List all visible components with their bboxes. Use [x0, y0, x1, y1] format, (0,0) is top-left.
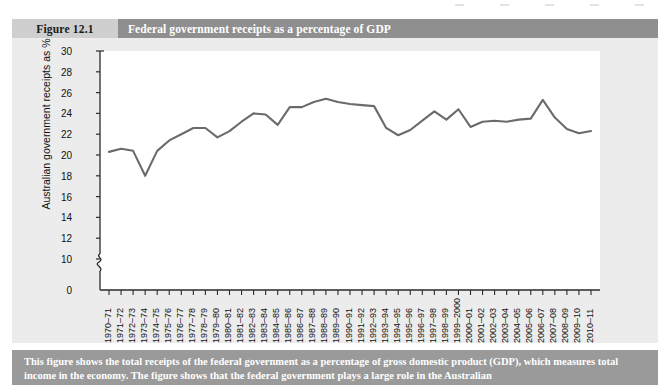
x-axis-tick-label: 1994–95 — [392, 308, 402, 343]
figure-panel: Australian government receipts as % 0101… — [12, 38, 658, 343]
x-axis-tick-label: 1982–83 — [247, 308, 257, 343]
x-axis-tick-label: 2003–04 — [500, 308, 510, 343]
page-top-strip — [0, 0, 670, 12]
x-axis-tick-label: 1976–77 — [175, 308, 185, 343]
x-axis-tick-label: 1985–86 — [283, 308, 293, 343]
x-axis-tick-label: 1979–80 — [211, 308, 221, 343]
page-tick-mark — [500, 4, 509, 6]
page-tick-mark — [455, 4, 464, 6]
x-axis-tick-label: 1991–92 — [356, 308, 366, 343]
x-axis-tick-label: 2007–08 — [548, 308, 558, 343]
x-axis-tick-label: 1986–87 — [295, 308, 305, 343]
x-axis-tick-label: 1987–88 — [307, 308, 317, 343]
figure-root: Figure 12.1 Federal government receipts … — [0, 0, 670, 385]
figure-title: Federal government receipts as a percent… — [118, 19, 658, 38]
x-axis-tick-label: 1984–85 — [271, 308, 281, 343]
x-axis-tick-label: 1993–94 — [380, 308, 390, 343]
y-axis-break-symbol — [97, 254, 101, 271]
x-axis-tick-label: 1970–71 — [103, 308, 113, 343]
x-axis-tick-label: 2008–09 — [560, 308, 570, 343]
x-axis-tick-label: 1999–2000 — [452, 298, 462, 343]
x-axis-tick-label: 1981–82 — [235, 308, 245, 343]
x-axis-tick-label: 1973–74 — [139, 308, 149, 343]
x-axis-tick-label: 1983–84 — [259, 308, 269, 343]
page-tick-mark — [590, 4, 599, 6]
x-axis-tick-label: 1972–73 — [127, 308, 137, 343]
x-axis-tick-label: 2009–10 — [572, 308, 582, 343]
x-axis-tick-label: 1998–99 — [440, 308, 450, 343]
x-axis-tick-label: 2005–06 — [524, 308, 534, 343]
x-axis-tick-label: 2002–03 — [488, 308, 498, 343]
x-axis-tick-label: 1992–93 — [368, 308, 378, 343]
data-series-line — [109, 99, 591, 176]
page-tick-mark — [545, 4, 554, 6]
x-axis-tick-label: 1996–97 — [416, 308, 426, 343]
x-axis-tick-label: 2006–07 — [536, 308, 546, 343]
figure-header: Figure 12.1 Federal government receipts … — [12, 19, 658, 38]
figure-caption: This figure shows the total receipts of … — [12, 350, 658, 385]
x-axis-tick-label: 1988–89 — [319, 308, 329, 343]
x-axis-tick-label: 1975–76 — [163, 308, 173, 343]
x-axis-tick-label: 2004–05 — [512, 308, 522, 343]
x-axis-tick-label: 1977–78 — [187, 308, 197, 343]
x-axis-tick-label: 1971–72 — [115, 308, 125, 343]
x-axis-tick-label: 2000–01 — [464, 308, 474, 343]
x-axis-tick-label: 1974–75 — [151, 308, 161, 343]
figure-number: Figure 12.1 — [12, 19, 118, 38]
x-axis-tick-label: 1995–96 — [404, 308, 414, 343]
x-axis-tick-labels: 1970–711971–721972–731973–741974–751975–… — [12, 294, 658, 343]
x-axis-tick-label: 1978–79 — [199, 308, 209, 343]
x-axis-tick-label: 2010–11 — [585, 309, 595, 343]
x-axis-tick-label: 1997–98 — [428, 308, 438, 343]
x-axis-tick-label: 1989–90 — [331, 308, 341, 343]
page-tick-mark — [635, 4, 644, 6]
x-axis-tick-label: 1990–91 — [344, 308, 354, 343]
x-axis-tick-label: 1980–81 — [223, 308, 233, 343]
x-axis-tick-label: 2001–02 — [476, 308, 486, 343]
